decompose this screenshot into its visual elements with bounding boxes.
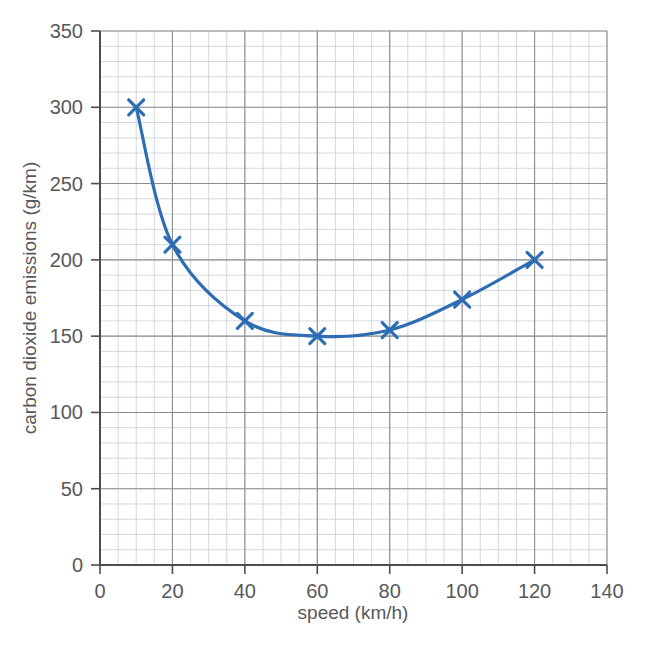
y-axis-title: carbon dioxide emissions (g/km) [19,162,40,434]
x-axis-title: speed (km/h) [298,602,409,623]
x-axis-tick-label: 20 [161,580,183,602]
y-axis-tick-label: 300 [50,96,83,118]
chart-container: 020406080100120140 050100150200250300350… [0,0,645,647]
y-axis-tick-label: 100 [50,401,83,423]
x-axis-tick-label: 60 [306,580,328,602]
x-axis-tick-label: 140 [590,580,623,602]
y-axis-tick-label: 350 [50,20,83,42]
y-axis-tick-label: 150 [50,325,83,347]
co2-vs-speed-line-chart: 020406080100120140 050100150200250300350… [0,0,645,647]
x-axis-tick-label: 120 [518,580,551,602]
x-axis-tick-label: 100 [445,580,478,602]
y-axis-tick-label: 200 [50,249,83,271]
x-axis-tick-label: 40 [234,580,256,602]
y-axis-tick-label: 50 [61,478,83,500]
x-axis-tick-label: 80 [379,580,401,602]
y-axis-tick-label: 250 [50,173,83,195]
x-axis-tick-label: 0 [94,580,105,602]
y-axis-tick-label: 0 [72,554,83,576]
